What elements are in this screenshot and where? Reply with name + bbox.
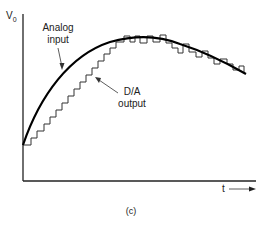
da-output-label: D/A output bbox=[112, 86, 152, 109]
x-axis-label: t bbox=[222, 183, 225, 195]
da-pointer-arrowhead bbox=[95, 77, 101, 83]
t-arrow-head bbox=[249, 187, 256, 192]
figure-caption: (c) bbox=[116, 206, 146, 216]
analog-input-label: Analog input bbox=[38, 22, 78, 45]
analog-pointer-arrowhead bbox=[60, 63, 65, 70]
y-axis-label: V0 bbox=[6, 10, 17, 24]
